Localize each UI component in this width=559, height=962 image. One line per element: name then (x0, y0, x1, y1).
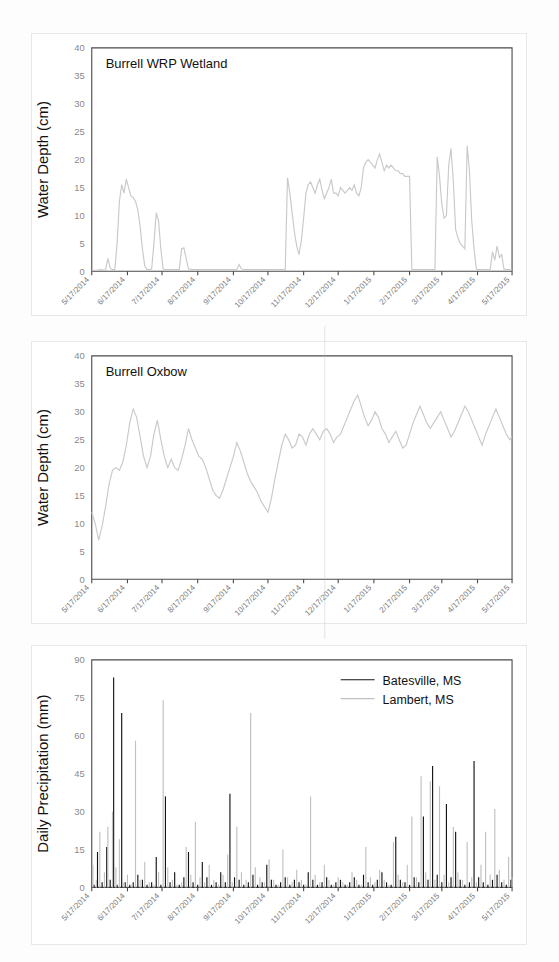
x-tick-label-wetland-2: 7/17/2014 (130, 275, 162, 307)
panel-title-wetland: Burrell WRP Wetland (106, 56, 228, 71)
x-tick-label-oxbow-12: 5/17/2015 (480, 583, 512, 615)
figure-container: 05101520253035405/17/20146/17/20147/17/2… (0, 0, 559, 962)
x-tick-label-precipitation-4: 9/17/2014 (201, 891, 233, 923)
y-axis-title-wetland: Water Depth (cm) (35, 101, 51, 218)
chart-panel-wetland: 05101520253035405/17/20146/17/20147/17/2… (31, 33, 527, 316)
x-tick-label-oxbow-4: 9/17/2014 (201, 583, 233, 615)
x-tick-label-wetland-10: 3/17/2015 (410, 275, 442, 307)
y-tick-label-oxbow-1: 5 (80, 546, 85, 557)
y-tick-label-precipitation-6: 90 (74, 654, 85, 665)
x-tick-label-oxbow-2: 7/17/2014 (130, 583, 162, 615)
x-tick-label-wetland-0: 5/17/2014 (60, 275, 92, 307)
x-tick-label-oxbow-6: 11/17/2014 (269, 583, 304, 617)
y-tick-label-oxbow-6: 30 (74, 406, 85, 417)
y-tick-label-oxbow-8: 40 (74, 350, 85, 361)
chart-panel-precipitation: 01530456075905/17/20146/17/20147/17/2014… (31, 645, 527, 945)
series-line-oxbow-0 (92, 395, 512, 540)
y-tick-label-precipitation-3: 45 (74, 768, 85, 779)
x-tick-label-precipitation-12: 5/17/2015 (480, 891, 512, 923)
y-tick-label-wetland-8: 40 (74, 42, 85, 53)
x-tick-label-precipitation-2: 7/17/2014 (130, 891, 162, 923)
x-tick-label-wetland-1: 6/17/2014 (95, 275, 127, 307)
panel-title-oxbow: Burrell Oxbow (106, 364, 188, 379)
precipitation-svg: 01530456075905/17/20146/17/20147/17/2014… (32, 646, 526, 944)
x-tick-label-wetland-5: 10/17/2014 (233, 275, 268, 310)
x-tick-label-oxbow-1: 6/17/2014 (95, 583, 127, 615)
x-tick-label-oxbow-11: 4/17/2015 (446, 583, 478, 615)
x-tick-label-precipitation-1: 6/17/2014 (96, 891, 128, 923)
series-spikes-batesville-ms (94, 678, 511, 888)
series-line-wetland-0 (92, 146, 512, 271)
x-tick-label-oxbow-5: 10/17/2014 (233, 583, 268, 618)
y-axis-title-precipitation: Daily Precipitation (mm) (35, 695, 51, 853)
x-tick-label-oxbow-8: 1/17/2015 (342, 583, 374, 615)
wetland-svg: 05101520253035405/17/20146/17/20147/17/2… (32, 34, 526, 315)
x-tick-label-wetland-8: 1/17/2015 (342, 275, 374, 307)
y-axis-title-oxbow: Water Depth (cm) (35, 409, 51, 526)
x-tick-label-precipitation-9: 2/17/2015 (378, 891, 410, 923)
legend-label-1: Lambert, MS (383, 693, 454, 707)
x-tick-label-oxbow-10: 3/17/2015 (410, 583, 442, 615)
y-tick-label-precipitation-1: 15 (74, 844, 85, 855)
y-tick-label-oxbow-3: 15 (74, 490, 85, 501)
y-tick-label-wetland-5: 25 (74, 126, 85, 137)
y-tick-label-precipitation-4: 60 (74, 730, 85, 741)
y-tick-label-wetland-2: 10 (74, 210, 85, 221)
x-tick-label-precipitation-11: 4/17/2015 (446, 891, 478, 923)
x-tick-label-oxbow-7: 12/17/2014 (303, 583, 338, 618)
x-tick-label-oxbow-9: 2/17/2015 (378, 583, 410, 615)
y-tick-label-wetland-1: 5 (80, 238, 85, 249)
x-tick-label-wetland-6: 11/17/2014 (269, 275, 304, 309)
y-tick-label-oxbow-2: 10 (74, 518, 85, 529)
x-tick-label-wetland-12: 5/17/2015 (480, 275, 512, 307)
x-tick-label-precipitation-8: 1/17/2015 (342, 891, 374, 923)
oxbow-svg: 05101520253035405/17/20146/17/20147/17/2… (32, 342, 526, 623)
chart-panel-oxbow: 05101520253035405/17/20146/17/20147/17/2… (31, 341, 527, 624)
x-tick-label-precipitation-5: 10/17/2014 (233, 891, 268, 926)
x-tick-label-wetland-4: 9/17/2014 (201, 275, 233, 307)
y-tick-label-precipitation-2: 30 (74, 806, 85, 817)
x-tick-label-precipitation-0: 5/17/2014 (60, 891, 92, 923)
x-tick-label-wetland-9: 2/17/2015 (378, 275, 410, 307)
x-tick-label-precipitation-10: 3/17/2015 (410, 891, 442, 923)
y-tick-label-oxbow-4: 20 (74, 462, 85, 473)
x-tick-label-precipitation-6: 11/17/2014 (269, 891, 303, 925)
legend-label-0: Batesville, MS (383, 674, 462, 688)
x-tick-label-oxbow-0: 5/17/2014 (60, 583, 92, 615)
x-tick-label-precipitation-3: 8/17/2014 (166, 891, 198, 923)
y-tick-label-wetland-7: 35 (74, 70, 85, 81)
x-tick-label-precipitation-7: 12/17/2014 (303, 891, 338, 926)
y-tick-label-oxbow-7: 35 (74, 378, 85, 389)
y-tick-label-precipitation-5: 75 (74, 692, 85, 703)
y-tick-label-wetland-4: 20 (74, 154, 85, 165)
x-tick-label-wetland-3: 8/17/2014 (166, 275, 198, 307)
plot-frame-oxbow (92, 356, 512, 579)
y-tick-label-oxbow-5: 25 (74, 434, 85, 445)
x-tick-label-oxbow-3: 8/17/2014 (166, 583, 198, 615)
y-tick-label-wetland-3: 15 (74, 182, 85, 193)
x-tick-label-wetland-11: 4/17/2015 (446, 275, 478, 307)
x-tick-label-wetland-7: 12/17/2014 (303, 275, 338, 310)
y-tick-label-wetland-6: 30 (74, 98, 85, 109)
